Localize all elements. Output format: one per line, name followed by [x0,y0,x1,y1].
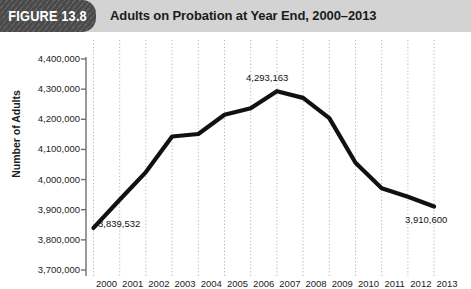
chart-container: Number of Adults 4,400,0004,300,0004,200… [0,32,471,281]
data-label-last: 3,910,600 [405,214,447,225]
figure-header-banner: FIGURE 13.8 Adults on Probation at Year … [0,0,471,32]
x-tick-label: 2013 [427,278,467,289]
x-axis-tick-labels: 2000200120022003200420052006200720082009… [0,32,471,281]
figure-number-label: FIGURE 13.8 [9,8,88,24]
page-title: Adults on Probation at Year End, 2000–20… [110,0,377,32]
data-label-peak: 4,293,163 [246,72,288,83]
data-label-first: 3,839,532 [98,218,140,229]
figure-number-badge: FIGURE 13.8 [0,0,96,32]
